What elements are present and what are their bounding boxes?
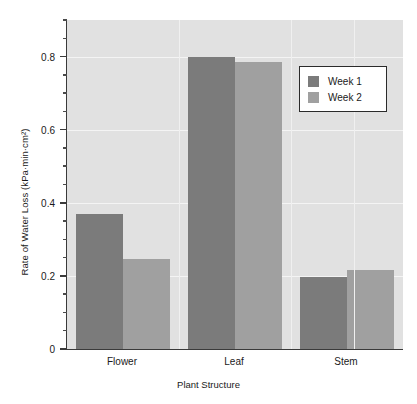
y-tick-label: 0.6 [0, 124, 55, 135]
bar [300, 277, 347, 349]
y-tick-minor [63, 111, 67, 113]
y-tick-label: 0.4 [0, 197, 55, 208]
legend-item: Week 1 [308, 73, 378, 89]
y-tick-major [60, 275, 67, 277]
y-tick-label: 0 [0, 344, 55, 355]
y-tick-minor [63, 239, 67, 241]
y-tick-minor [63, 330, 67, 332]
bar [188, 57, 235, 349]
x-tick-label: Flower [107, 356, 137, 367]
x-axis-title: Plant Structure [0, 379, 417, 390]
x-tick-label: Stem [334, 356, 357, 367]
y-tick-major [60, 56, 67, 58]
y-tick-label: 0.2 [0, 270, 55, 281]
y-tick-minor [63, 184, 67, 186]
y-tick-minor [63, 293, 67, 295]
y-tick-minor [63, 19, 67, 21]
x-tick-label: Leaf [224, 356, 243, 367]
y-tick-minor [63, 92, 67, 94]
gridline-vertical [291, 20, 292, 349]
y-tick-minor [63, 312, 67, 314]
legend-swatch-week-1 [308, 76, 319, 87]
y-tick-minor [63, 147, 67, 149]
y-tick-minor [63, 257, 67, 259]
bar [123, 259, 170, 349]
y-tick-minor [63, 38, 67, 40]
legend-label-week-2: Week 2 [328, 92, 362, 103]
y-tick-minor [63, 74, 67, 76]
y-tick-major [60, 348, 67, 350]
bar-chart-figure: Rate of Water Loss (kPa·min·cm²) Plant S… [0, 0, 417, 404]
y-tick-major [60, 129, 67, 131]
legend: Week 1 Week 2 [299, 66, 387, 112]
gridline-horizontal [67, 57, 403, 58]
gridline-vertical [179, 20, 180, 349]
y-tick-minor [63, 220, 67, 222]
legend-label-week-1: Week 1 [328, 76, 362, 87]
bar [76, 214, 123, 349]
legend-item: Week 2 [308, 89, 378, 105]
bar [235, 62, 282, 349]
y-tick-minor [63, 165, 67, 167]
legend-swatch-week-2 [308, 92, 319, 103]
y-tick-label: 0.8 [0, 51, 55, 62]
y-tick-major [60, 202, 67, 204]
